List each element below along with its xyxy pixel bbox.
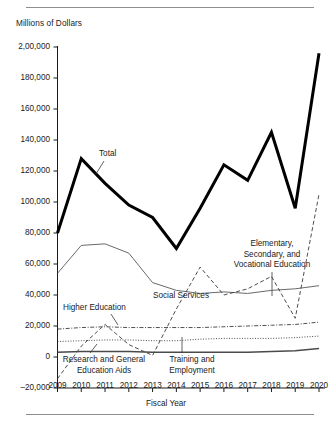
series-label-training-and-employment: Training and Employment (156, 355, 228, 376)
label-line-2: Secondary, and (214, 250, 330, 261)
y-tick-label: 20,000 (2, 321, 50, 330)
series-line-higher-education (58, 322, 320, 329)
series-label-total: Total (99, 149, 116, 160)
series-label-social-services: Social Services (153, 291, 209, 302)
y-tick-label: 0 (2, 352, 50, 361)
y-tick-label: 120,000 (2, 166, 50, 175)
series-label-elementary-secondary-vocational: Elementary, Secondary, and Vocational Ed… (214, 239, 330, 271)
y-tick-label: 180,000 (2, 73, 50, 82)
leader-total (96, 161, 104, 174)
label-line-2: Employment (156, 366, 228, 377)
series-line-training-and-employment (58, 348, 320, 352)
label-line-2: Education Aids (58, 366, 150, 377)
series-label-research-general-education-aids: Research and General Education Aids (58, 355, 150, 376)
series-line-total (58, 53, 320, 248)
x-tick-label: 2020 (304, 381, 332, 390)
series-group (58, 53, 320, 379)
y-tick-label: 140,000 (2, 135, 50, 144)
label-line-1: Training and (156, 355, 228, 366)
leader-higher-education (111, 314, 118, 325)
y-tick-label: 100,000 (2, 197, 50, 206)
y-tick-label: 80,000 (2, 228, 50, 237)
label-line-3: Vocational Education (214, 260, 330, 271)
y-tick-label: 2,00,000 (2, 42, 50, 51)
y-tick-label: 60,000 (2, 259, 50, 268)
label-line-1: Research and General (58, 355, 150, 366)
y-tick-label: 160,000 (2, 104, 50, 113)
chart-figure: Millions of Dollars Fiscal Year 2,00,000… (0, 0, 332, 422)
label-line-1: Elementary, (214, 239, 330, 250)
series-label-higher-education: Higher Education (63, 303, 126, 314)
series-line-research-and-general-education-aids (58, 336, 320, 341)
y-tick-label: 40,000 (2, 290, 50, 299)
